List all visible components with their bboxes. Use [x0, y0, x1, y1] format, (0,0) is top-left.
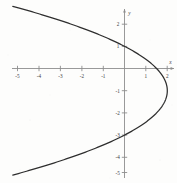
- y-tick-label-2: 2: [117, 21, 120, 27]
- x-tick-label--5: -5: [15, 73, 20, 79]
- y-tick-label--2: -2: [115, 110, 120, 116]
- y-tick-label--1: -1: [115, 88, 120, 94]
- x-axis-label: x: [168, 59, 172, 65]
- x-tick-label--2: -2: [80, 73, 85, 79]
- x-tick-label-1: 1: [145, 73, 148, 79]
- x-tick-label--3: -3: [58, 73, 63, 79]
- y-tick-label--4: -4: [115, 154, 120, 160]
- x-tick-label-2: 2: [166, 73, 169, 79]
- y-axis-arrow: [123, 9, 126, 12]
- parabola-curve: [13, 6, 168, 175]
- x-tick-label--1: -1: [101, 73, 106, 79]
- scan-noise: [8, 30, 173, 179]
- graph-canvas: -5 -4 -3 -2 -1 1 2 2 1 -1 -2 -3 -4 -5 x …: [0, 0, 177, 183]
- x-tick-label--4: -4: [37, 73, 42, 79]
- x-axis-arrow: [171, 67, 174, 70]
- parabola-figure: -5 -4 -3 -2 -1 1 2 2 1 -1 -2 -3 -4 -5 x …: [0, 0, 177, 183]
- y-axis-label: y: [127, 10, 131, 16]
- y-tick-label--5: -5: [115, 170, 120, 176]
